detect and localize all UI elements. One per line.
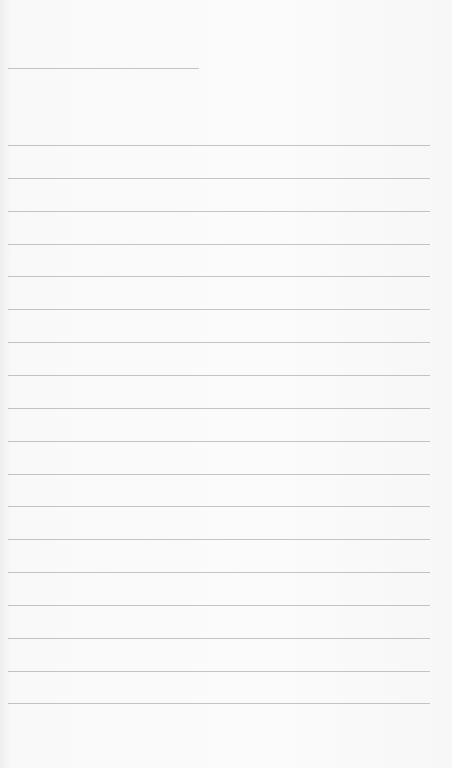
ruled-line — [8, 211, 430, 212]
ruled-line — [8, 572, 430, 573]
ruled-line — [8, 145, 430, 146]
ruled-line — [8, 375, 430, 376]
ruled-line — [8, 441, 430, 442]
ruled-line — [8, 474, 430, 475]
ruled-line — [8, 671, 430, 672]
ruled-line — [8, 408, 430, 409]
lined-paper-page — [0, 0, 452, 768]
ruled-line — [8, 703, 430, 704]
ruled-line — [8, 506, 430, 507]
ruled-line — [8, 276, 430, 277]
ruled-line — [8, 605, 430, 606]
ruled-line — [8, 309, 430, 310]
ruled-line — [8, 342, 430, 343]
header-line — [8, 68, 199, 69]
ruled-line — [8, 244, 430, 245]
ruled-line — [8, 539, 430, 540]
ruled-line — [8, 178, 430, 179]
ruled-line — [8, 638, 430, 639]
